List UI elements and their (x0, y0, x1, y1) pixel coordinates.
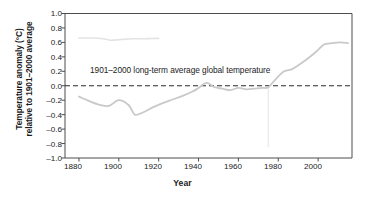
series-line-global-temperature-anomaly (79, 42, 348, 115)
series-line-upper-faint (79, 38, 159, 40)
axis-tick-marks (62, 14, 319, 162)
x-axis-title: Year (0, 178, 365, 188)
reference-line-annotation: 1901–2000 long-term average global tempe… (90, 66, 270, 75)
temperature-anomaly-chart: Temperature anomaly (°C) relative to 190… (0, 0, 365, 198)
plot-area (0, 0, 365, 198)
